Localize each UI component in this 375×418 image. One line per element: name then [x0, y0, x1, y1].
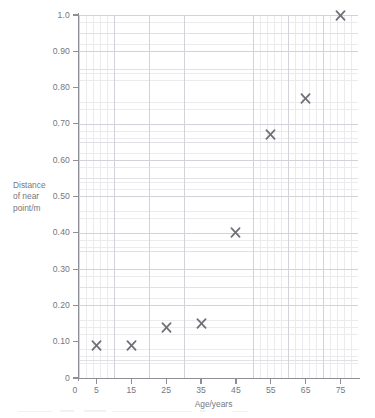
y-axis-tick-label: 0.90 [24, 46, 70, 56]
x-axis-tick-label: 5 [83, 385, 109, 395]
y-axis-title-line: Distance [13, 180, 67, 191]
y-axis-tick [73, 269, 79, 270]
data-point-marker [161, 322, 172, 333]
x-axis-tick-label: 55 [258, 385, 284, 395]
data-point-marker [265, 129, 276, 140]
scan-artifact [60, 410, 74, 412]
y-axis-tick [73, 123, 79, 124]
y-axis-tick [73, 87, 79, 88]
y-axis-tick-label: 0.60 [24, 155, 70, 165]
scan-artifact [232, 411, 248, 412]
x-axis-tick [270, 378, 271, 384]
data-point-marker [91, 340, 102, 351]
x-axis-tick-label: 15 [118, 385, 144, 395]
y-axis-tick [73, 305, 79, 306]
major-gridlines [79, 15, 358, 378]
data-point-marker [230, 227, 241, 238]
y-axis-tick-label: 0.30 [24, 264, 70, 274]
x-axis-tick [96, 378, 97, 384]
x-axis-tick-label: 65 [293, 385, 319, 395]
x-axis-tick [200, 378, 201, 384]
plot-area [79, 15, 358, 378]
y-axis-tick [73, 196, 79, 197]
x-axis-tick [131, 378, 132, 384]
y-axis-tick-label: 0.20 [24, 300, 70, 310]
y-axis-tick-label: 0.80 [24, 82, 70, 92]
scan-artifact [18, 411, 52, 412]
scan-artifact [200, 410, 206, 412]
x-axis-tick-label: 35 [188, 385, 214, 395]
y-axis-tick [73, 341, 79, 342]
y-axis-tick-label: 0.70 [24, 118, 70, 128]
scatter-chart-figure: 00.100.200.300.400.500.600.700.800.901.0… [0, 0, 375, 418]
y-axis-tick-label: 1.0 [24, 10, 70, 20]
x-axis-tick [305, 378, 306, 384]
x-axis-tick-label: 45 [223, 385, 249, 395]
y-axis-tick [73, 232, 79, 233]
x-axis-line [78, 378, 360, 379]
data-point-marker [300, 93, 311, 104]
data-point-marker [196, 318, 207, 329]
y-axis-tick [73, 14, 79, 15]
x-axis-tick-label: 25 [153, 385, 179, 395]
scan-artifact [84, 410, 106, 412]
y-axis-tick [73, 377, 79, 378]
x-axis-tick [166, 378, 167, 384]
y-axis-tick-label: 0 [24, 373, 70, 383]
x-axis-tick-label: 75 [328, 385, 354, 395]
y-axis-title-line: point/m [13, 203, 67, 214]
y-axis-tick-label: 0.10 [24, 336, 70, 346]
data-point-marker [335, 10, 346, 21]
y-axis-tick [73, 51, 79, 52]
y-axis-title: Distanceof nearpoint/m [13, 180, 67, 214]
data-point-marker [126, 340, 137, 351]
x-axis-title: Age/years [0, 399, 375, 409]
x-axis-tick [340, 378, 341, 384]
y-axis-tick [73, 160, 79, 161]
y-axis-tick-label: 0.40 [24, 227, 70, 237]
x-axis-tick [235, 378, 236, 384]
y-axis-title-line: of near [13, 191, 67, 202]
scan-artifact [112, 411, 192, 412]
